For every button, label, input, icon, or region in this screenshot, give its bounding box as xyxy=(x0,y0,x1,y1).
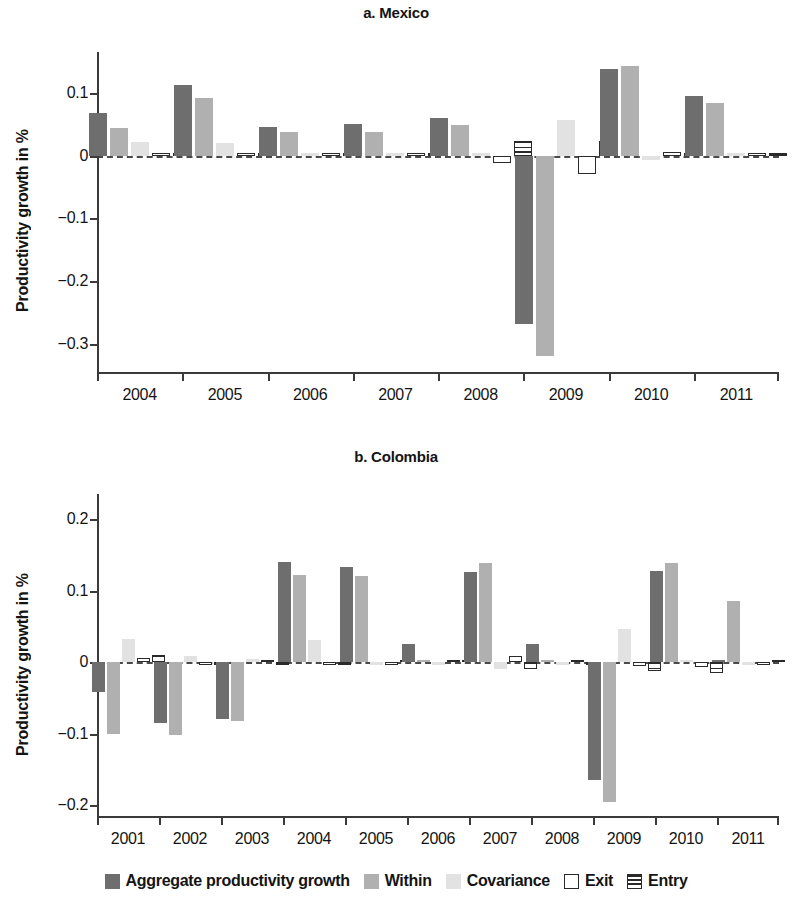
x-tick-label: 2007 xyxy=(378,386,412,404)
y-tick-label: −0.1 xyxy=(58,725,88,743)
bar-exit-2005 xyxy=(237,153,255,155)
legend-swatch-cov-icon xyxy=(446,874,461,889)
bar-covariance-2002 xyxy=(184,656,197,662)
x-tick xyxy=(159,816,161,825)
bar-exit-2006 xyxy=(447,660,460,662)
bar-exit-2007 xyxy=(407,153,425,155)
x-tick-label: 2008 xyxy=(463,386,497,404)
x-tick xyxy=(97,372,99,381)
bar-aggregate-productivity-growth-2010 xyxy=(650,571,663,662)
x-tick-label: 2007 xyxy=(483,830,517,848)
bar-within-2006 xyxy=(417,660,430,662)
y-tick-label: −0.3 xyxy=(58,335,88,353)
x-tick xyxy=(593,816,595,825)
bar-exit-2004 xyxy=(152,153,170,155)
bar-covariance-2004 xyxy=(131,142,149,155)
y-tick xyxy=(90,281,99,283)
plot-area-colombia: 0.20.10−0.1−0.22001200220032004200520062… xyxy=(97,494,779,832)
x-tick-label: 2004 xyxy=(297,830,331,848)
x-tick-label: 2010 xyxy=(669,830,703,848)
bar-covariance-2006 xyxy=(432,662,445,664)
x-tick xyxy=(182,372,184,381)
bar-covariance-2010 xyxy=(642,156,660,160)
x-tick-label: 2002 xyxy=(173,830,207,848)
legend-label: Exit xyxy=(585,872,613,890)
x-tick xyxy=(345,816,347,825)
bar-within-2007 xyxy=(365,132,383,156)
x-tick-label: 2006 xyxy=(293,386,327,404)
x-tick-label: 2004 xyxy=(122,386,156,404)
bar-aggregate-productivity-growth-2010 xyxy=(600,69,618,156)
legend-label: Covariance xyxy=(467,872,550,890)
y-tick xyxy=(90,218,99,220)
y-tick-label: 0 xyxy=(79,653,88,671)
bar-exit-2004 xyxy=(323,662,336,665)
x-tick xyxy=(694,372,696,381)
bar-within-2009 xyxy=(603,662,616,802)
y-tick-label: 0.1 xyxy=(67,582,88,600)
bar-exit-2011 xyxy=(748,153,766,155)
legend-item-cov: Covariance xyxy=(446,872,550,890)
x-tick xyxy=(97,816,99,825)
y-tick-label: −0.2 xyxy=(58,796,88,814)
legend-label: Within xyxy=(385,872,432,890)
x-tick xyxy=(268,372,270,381)
x-tick xyxy=(469,816,471,825)
x-tick xyxy=(655,816,657,825)
x-tick-label: 2005 xyxy=(208,386,242,404)
x-tick xyxy=(531,816,533,825)
bar-exit-2003 xyxy=(261,660,274,662)
legend-item-within: Within xyxy=(364,872,432,890)
bar-exit-2008 xyxy=(571,660,584,662)
bar-within-2010 xyxy=(621,66,639,155)
y-tick xyxy=(90,591,99,593)
y-tick xyxy=(90,519,99,521)
y-tick-label: 0.2 xyxy=(67,510,88,528)
bar-within-2005 xyxy=(195,98,213,155)
bar-covariance-2007 xyxy=(494,662,507,669)
bar-aggregate-productivity-growth-2011 xyxy=(712,660,725,662)
x-tick xyxy=(717,816,719,825)
bar-exit-2011 xyxy=(757,662,770,664)
bar-within-2006 xyxy=(280,132,298,155)
zero-line-mexico xyxy=(97,156,779,160)
bar-within-2007 xyxy=(479,563,492,662)
bar-aggregate-productivity-growth-2001 xyxy=(92,662,105,692)
bar-within-2008 xyxy=(451,125,469,156)
legend-label: Entry xyxy=(648,872,687,890)
bar-aggregate-productivity-growth-2004 xyxy=(89,113,107,155)
bar-aggregate-productivity-growth-2008 xyxy=(526,644,539,662)
y-tick-label: 0 xyxy=(79,147,88,165)
legend-swatch-within-icon xyxy=(364,874,379,889)
bar-exit-2006 xyxy=(322,153,340,155)
bar-within-2011 xyxy=(727,601,740,662)
bar-entry-2010 xyxy=(710,662,723,673)
bar-within-2008 xyxy=(541,660,554,662)
x-tick xyxy=(438,372,440,381)
bar-exit-2008 xyxy=(493,156,511,164)
bar-exit-2001 xyxy=(137,658,150,662)
x-tick-label: 2001 xyxy=(111,830,145,848)
legend-item-agg: Aggregate productivity growth xyxy=(105,872,350,890)
bar-covariance-2011 xyxy=(742,662,755,664)
x-tick xyxy=(407,816,409,825)
y-axis-line-mexico xyxy=(97,52,99,372)
y-tick-label: 0.1 xyxy=(67,84,88,102)
legend: Aggregate productivity growthWithinCovar… xyxy=(0,872,792,890)
bar-aggregate-productivity-growth-2002 xyxy=(154,662,167,723)
bar-covariance-2005 xyxy=(370,662,383,664)
legend-swatch-entry-icon xyxy=(627,874,642,889)
y-tick xyxy=(90,93,99,95)
bar-within-2002 xyxy=(169,662,182,735)
bar-within-2004 xyxy=(110,128,128,156)
bar-entry-2011 xyxy=(772,660,785,662)
panel-colombia: b. Colombia xyxy=(0,448,792,465)
bar-aggregate-productivity-growth-2009 xyxy=(515,156,533,324)
bar-covariance-2006 xyxy=(301,153,319,155)
bar-covariance-2010 xyxy=(680,660,693,662)
x-tick-label: 2011 xyxy=(720,386,753,404)
y-tick-label: −0.1 xyxy=(58,209,88,227)
bar-exit-2010 xyxy=(663,152,681,156)
bar-aggregate-productivity-growth-2005 xyxy=(340,567,353,662)
y-axis-line-colombia xyxy=(97,494,99,816)
